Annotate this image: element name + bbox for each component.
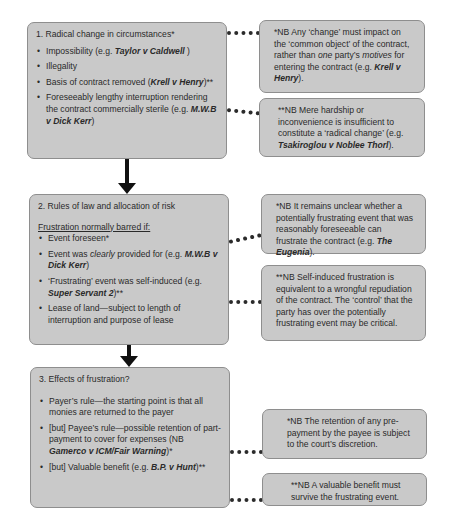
list-item: Illegality — [36, 61, 218, 73]
dotted-connector — [230, 498, 263, 502]
dotted-connector — [229, 300, 262, 304]
note-foreseeable: *NB It remains unclear whether a potenti… — [261, 194, 426, 254]
box-title: 2. Rules of law and allocation of risk — [38, 201, 220, 213]
list-item: Foreseeably lengthy interruption renderi… — [36, 92, 218, 127]
box-rules-of-law: 2. Rules of law and allocation of risk F… — [29, 194, 229, 345]
note-hardship: **NB Mere hardship or inconvenience is i… — [259, 98, 425, 157]
flow-arrow-head — [120, 356, 138, 367]
list-item: Event was clearly provided for (e.g. M.W… — [38, 249, 220, 272]
list-item: Impossibility (e.g. Taylor v Caldwell ) — [36, 46, 218, 58]
box-title: 3. Effects of frustration? — [39, 374, 221, 386]
box-effects: 3. Effects of frustration? Payer’s rule—… — [30, 367, 230, 508]
box-radical-change: 1. Radical change in circumstances* Impo… — [27, 22, 227, 159]
box-subtitle: Frustration normally barred if: — [38, 222, 220, 234]
effects-list: Payer’s rule—the starting point is that … — [39, 396, 221, 474]
list-item: [but] Payee’s rule—possible retention of… — [39, 423, 221, 458]
dotted-connector — [227, 31, 260, 35]
flow-arrow-head — [118, 183, 136, 194]
box-title: 1. Radical change in circumstances* — [36, 29, 218, 41]
flow-arrow-line — [125, 159, 129, 184]
note-valuable-benefit: **NB A valuable benefit must survive the… — [262, 473, 427, 506]
list-item: [but] Valuable benefit (e.g. B.P. v Hunt… — [39, 462, 221, 474]
note-self-induced: **NB Self-induced frustration is equival… — [261, 265, 426, 341]
criteria-list: Impossibility (e.g. Taylor v Caldwell ) … — [36, 46, 218, 128]
dotted-connector — [230, 450, 263, 454]
note-common-object: *NB Any ‘change’ must impact on the ‘com… — [259, 20, 425, 93]
note-retention: *NB The retention of any pre-payment by … — [262, 409, 427, 459]
dotted-connector — [227, 108, 260, 115]
list-item: ‘Frustrating’ event was self-induced (e.… — [38, 276, 220, 299]
dotted-connector — [229, 233, 262, 244]
bars-list: Event foreseen* Event was clearly provid… — [38, 233, 220, 326]
list-item: Basis of contract removed (Krell v Henry… — [36, 77, 218, 89]
list-item: Lease of land—subject to length of inter… — [38, 303, 220, 326]
list-item: Event foreseen* — [38, 233, 220, 245]
list-item: Payer’s rule—the starting point is that … — [39, 396, 221, 419]
